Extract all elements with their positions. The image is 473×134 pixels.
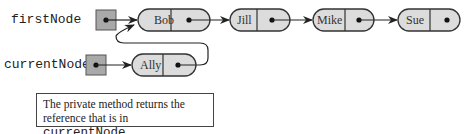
node-data: Mike bbox=[317, 13, 342, 27]
caption-box: The private method returns the reference… bbox=[36, 93, 214, 127]
node-jill: Jill bbox=[230, 9, 312, 31]
node-ally: Ally bbox=[116, 25, 208, 76]
node-sue: Sue bbox=[398, 9, 460, 31]
node-data: Ally bbox=[140, 58, 161, 72]
current-node-ref-box bbox=[86, 55, 131, 75]
node-data: Jill bbox=[237, 13, 252, 27]
node-data: Sue bbox=[406, 13, 424, 27]
node-data: Bob bbox=[154, 13, 174, 27]
node-mike: Mike bbox=[313, 9, 397, 31]
caption-line-2-text: reference that is in bbox=[43, 112, 128, 124]
caption-line-1: The private method returns the bbox=[43, 97, 207, 111]
caption-code: currentNode bbox=[43, 126, 126, 134]
caption-line-2: reference that is in currentNode bbox=[43, 111, 207, 134]
node-bob: Bob bbox=[138, 9, 229, 31]
